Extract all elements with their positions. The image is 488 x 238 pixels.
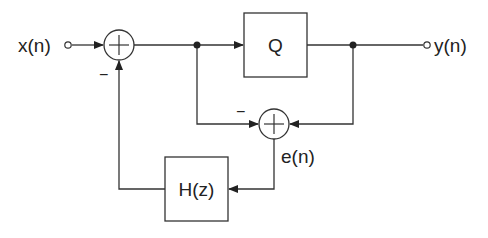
summing-junction-2 (259, 109, 289, 139)
junction-node-2 (350, 42, 357, 49)
noise-shaping-block-diagram: x(n) y(n) e(n) Q H(z) − − (0, 0, 488, 238)
input-terminal (65, 42, 71, 48)
error-wire (229, 139, 274, 189)
junction-node-1 (194, 42, 201, 49)
filter-label: H(z) (179, 179, 215, 200)
minus-sign-sum2: − (236, 103, 245, 120)
minus-sign-sum1: − (99, 66, 108, 83)
output-terminal (424, 42, 430, 48)
error-label: e(n) (281, 146, 315, 167)
output-label: y(n) (434, 35, 467, 56)
summing-junction-1 (104, 30, 134, 60)
input-label: x(n) (18, 35, 51, 56)
quantizer-label: Q (268, 35, 283, 56)
filter-feedback-wire (119, 61, 165, 189)
